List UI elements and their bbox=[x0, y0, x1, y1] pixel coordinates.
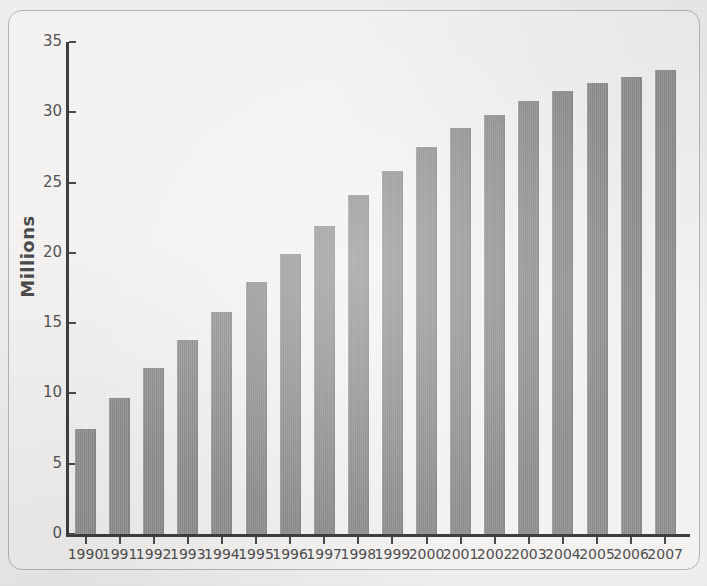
bar bbox=[314, 226, 335, 534]
x-tick-mark bbox=[664, 537, 666, 544]
x-tick-mark bbox=[426, 537, 428, 544]
x-tick-mark bbox=[562, 537, 564, 544]
x-tick-mark bbox=[323, 537, 325, 544]
x-tick-mark bbox=[630, 537, 632, 544]
bar bbox=[518, 101, 539, 534]
bar bbox=[211, 312, 232, 534]
x-tick-mark bbox=[289, 537, 291, 544]
bar bbox=[109, 398, 130, 534]
bar bbox=[382, 171, 403, 534]
bar bbox=[450, 128, 471, 534]
x-tick-mark bbox=[391, 537, 393, 544]
y-tick-label: 30 bbox=[24, 104, 62, 119]
bar bbox=[416, 147, 437, 534]
bar bbox=[143, 368, 164, 534]
x-tick-mark bbox=[187, 537, 189, 544]
y-tick-mark bbox=[69, 41, 76, 43]
bar bbox=[621, 77, 642, 534]
x-tick-mark bbox=[153, 537, 155, 544]
bar bbox=[348, 195, 369, 534]
bar bbox=[552, 91, 573, 534]
bar bbox=[655, 70, 676, 534]
x-tick-mark bbox=[494, 537, 496, 544]
x-tick-mark bbox=[119, 537, 121, 544]
y-tick-mark bbox=[69, 111, 76, 113]
y-tick-label: 10 bbox=[24, 385, 62, 400]
y-tick-label: 35 bbox=[24, 34, 62, 49]
bar bbox=[177, 340, 198, 534]
x-tick-mark bbox=[528, 537, 530, 544]
y-tick-label: 5 bbox=[24, 456, 62, 471]
x-tick-mark bbox=[460, 537, 462, 544]
x-tick-label: 2007 bbox=[642, 547, 688, 561]
bar bbox=[484, 115, 505, 534]
y-tick-label: 25 bbox=[24, 175, 62, 190]
bar bbox=[280, 254, 301, 534]
bar bbox=[246, 282, 267, 534]
scanned-page: Millions 05101520253035 1990199119921993… bbox=[0, 0, 707, 586]
bar bbox=[587, 83, 608, 534]
y-tick-label: 15 bbox=[24, 315, 62, 330]
y-tick-label: 20 bbox=[24, 245, 62, 260]
bar bbox=[75, 429, 96, 534]
x-tick-mark bbox=[85, 537, 87, 544]
bar-chart: Millions 05101520253035 1990199119921993… bbox=[0, 0, 707, 586]
x-tick-mark bbox=[221, 537, 223, 544]
y-tick-mark bbox=[69, 392, 76, 394]
x-tick-mark bbox=[357, 537, 359, 544]
y-tick-mark bbox=[69, 182, 76, 184]
y-tick-mark bbox=[69, 252, 76, 254]
x-tick-mark bbox=[596, 537, 598, 544]
x-tick-mark bbox=[255, 537, 257, 544]
y-tick-mark bbox=[69, 322, 76, 324]
y-tick-label: 0 bbox=[24, 526, 62, 541]
